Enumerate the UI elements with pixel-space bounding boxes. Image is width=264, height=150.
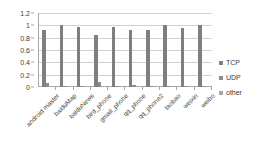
bar-group [160, 13, 177, 87]
x-tick-label: weixin [181, 92, 199, 110]
legend-label: UDP [226, 74, 241, 81]
y-tick-label: 1 [26, 22, 30, 29]
bar-tcp [163, 25, 167, 87]
legend-swatch-icon [219, 76, 223, 80]
legend-item[interactable]: other [219, 85, 264, 100]
bar-tcp [181, 28, 185, 87]
x-axis: android masterbaiduMapbaiduNewsbird_phon… [39, 90, 212, 148]
y-axis: 00.20.40.60.811.2 [0, 13, 34, 87]
bar-group [125, 13, 142, 87]
y-tick-label: 0.2 [20, 71, 30, 78]
bar-group [56, 13, 73, 87]
y-tick-mark [31, 13, 34, 14]
y-tick-mark [31, 37, 34, 38]
bar-group [177, 13, 194, 87]
y-tick-mark [31, 74, 34, 75]
bars-layer [39, 13, 212, 87]
y-tick-label: 1.2 [20, 10, 30, 17]
bar-group [74, 13, 91, 87]
legend-item[interactable]: TCP [219, 55, 264, 70]
y-tick-label: 0.6 [20, 47, 30, 54]
legend-item[interactable]: UDP [219, 70, 264, 85]
bar-tcp [112, 27, 116, 87]
bar-tcp [94, 35, 98, 87]
bar-tcp [129, 30, 133, 87]
legend-swatch-icon [219, 91, 223, 95]
y-tick-mark [31, 25, 34, 26]
legend-swatch-icon [219, 61, 223, 65]
bar-chart: 00.20.40.60.811.2 android masterbaiduMap… [0, 0, 264, 150]
y-tick-label: 0 [26, 84, 30, 91]
x-tick-label: weibo [199, 92, 216, 109]
y-tick-mark [31, 87, 34, 88]
legend-label: TCP [226, 59, 240, 66]
bar-tcp [146, 30, 150, 87]
bar-group [143, 13, 160, 87]
legend-label: other [226, 89, 242, 96]
y-tick-mark [31, 50, 34, 51]
x-tick-label: taobao [162, 92, 181, 111]
chart-legend: TCPUDPother [219, 55, 264, 100]
bar-group [195, 13, 212, 87]
bar-group [108, 13, 125, 87]
bar-group [39, 13, 56, 87]
y-tick-label: 0.8 [20, 34, 30, 41]
bar-tcp [42, 30, 46, 87]
bar-tcp [77, 27, 81, 87]
bar-group [91, 13, 108, 87]
y-tick-label: 0.4 [20, 59, 30, 66]
bar-tcp [198, 25, 202, 87]
y-tick-mark [31, 62, 34, 63]
bar-tcp [60, 25, 64, 87]
